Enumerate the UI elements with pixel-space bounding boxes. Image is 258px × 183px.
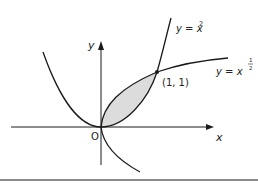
y-axis-arrow-icon (98, 41, 104, 50)
root-label: y = x (215, 66, 243, 77)
x-axis-arrow-icon (206, 124, 214, 130)
origin-label: O (91, 131, 99, 142)
bottom-rule (0, 179, 258, 181)
x-axis-label: x (215, 131, 223, 144)
intersection-label: (1, 1) (162, 77, 189, 88)
root-label-exp-den: 2 (249, 65, 253, 71)
parabola-label-exponent: 2 (199, 20, 203, 28)
shaded-region (101, 72, 157, 127)
root-curve-lower (101, 127, 140, 172)
root-label-exp-num: 1 (249, 57, 253, 63)
y-axis-label: y (87, 39, 95, 52)
area-between-curves-diagram: y x O y = x 2 y = x 1 2 (1, 1) (0, 0, 258, 183)
intersection-point (155, 70, 159, 74)
